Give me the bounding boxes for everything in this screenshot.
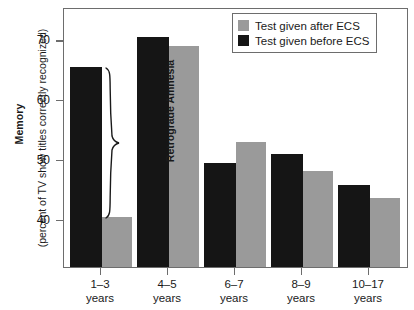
y-tick-label-40: 40 — [37, 213, 50, 227]
retrograde-amnesia-label: Retrograde Amnesia — [164, 31, 176, 191]
x-tick-mark-1 — [100, 268, 101, 275]
x-tick-mark-5 — [368, 268, 369, 275]
x-label-line1: 6–7 — [224, 278, 243, 290]
retrograde-amnesia-brace — [104, 66, 122, 220]
bar-before-8-9-years — [271, 154, 303, 267]
legend-label-before-ecs: Test given before ECS — [255, 35, 369, 47]
y-tick-mark-40 — [56, 220, 63, 221]
y-tick-mark-50 — [56, 160, 63, 161]
legend-item-before-ecs: Test given before ECS — [238, 33, 369, 48]
bar-before-1-3-years — [70, 67, 102, 267]
bar-after-8-9-years — [303, 171, 333, 267]
chart-legend: Test given after ECS Test given before E… — [232, 13, 377, 53]
y-tick-mark-70 — [56, 40, 63, 41]
y-axis-title: Memory — [13, 79, 25, 169]
legend-swatch-after-icon — [238, 20, 249, 31]
bar-after-6-7-years — [236, 142, 266, 267]
legend-label-after-ecs: Test given after ECS — [255, 20, 360, 32]
x-label-line1: 1–3 — [90, 278, 109, 290]
x-tick-mark-3 — [234, 268, 235, 275]
y-tick-label-70: 70 — [37, 33, 50, 47]
bar-after-10-17-years — [370, 198, 400, 267]
x-label-line1: 10–17 — [352, 278, 384, 290]
chart-container: Memory (percent of TV show titles correc… — [0, 0, 414, 310]
y-tick-label-50: 50 — [37, 153, 50, 167]
legend-swatch-before-icon — [238, 35, 249, 46]
x-label-line1: 8–9 — [291, 278, 310, 290]
bar-before-10-17-years — [338, 185, 370, 267]
y-tick-label-60: 60 — [37, 93, 50, 107]
x-tick-mark-2 — [167, 268, 168, 275]
bar-before-6-7-years — [204, 163, 236, 267]
x-tick-mark-4 — [301, 268, 302, 275]
y-tick-mark-60 — [56, 100, 63, 101]
legend-item-after-ecs: Test given after ECS — [238, 18, 369, 33]
bar-after-1-3-years — [102, 217, 132, 267]
clipped-caption-text — [0, 300, 414, 310]
x-label-line1: 4–5 — [157, 278, 176, 290]
